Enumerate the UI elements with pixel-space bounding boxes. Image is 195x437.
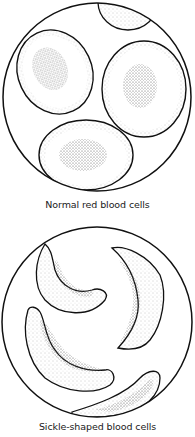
normal-cell xyxy=(102,41,186,137)
sickle-cells-caption: Sickle-shaped blood cells xyxy=(0,421,195,432)
normal-cells-caption: Normal red blood cells xyxy=(0,199,195,210)
normal-cell xyxy=(3,17,106,126)
sickle-cell xyxy=(25,307,113,391)
blood-cells-diagram xyxy=(0,0,195,437)
normal-cell xyxy=(98,0,158,30)
normal-cells-panel xyxy=(3,0,191,191)
sickle-cells-panel xyxy=(2,227,192,417)
sickle-cell xyxy=(36,244,106,313)
sickle-cell xyxy=(112,247,164,349)
